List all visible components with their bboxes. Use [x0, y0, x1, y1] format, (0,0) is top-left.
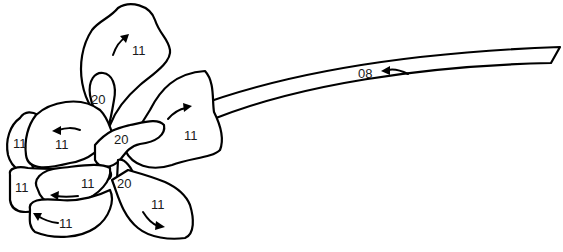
label-bottom-right: 11 [151, 198, 165, 211]
flower-diagram [0, 0, 563, 252]
label-stem: 08 [358, 67, 372, 80]
label-lower-center: 20 [117, 177, 131, 190]
label-lower-left-outer: 11 [15, 181, 29, 194]
stem [208, 47, 560, 118]
label-center: 20 [114, 133, 128, 146]
label-top-inner: 20 [91, 93, 105, 106]
label-top-petal: 11 [132, 44, 146, 57]
label-left-inner: 11 [55, 138, 69, 151]
label-left-outer: 11 [13, 137, 27, 150]
label-lower-left-inner: 11 [81, 177, 95, 190]
label-bottom-left: 11 [59, 217, 73, 230]
label-right-petal: 11 [184, 129, 198, 142]
